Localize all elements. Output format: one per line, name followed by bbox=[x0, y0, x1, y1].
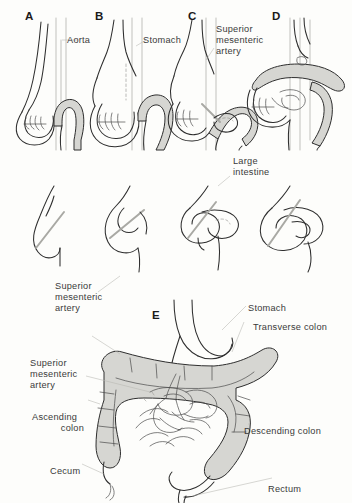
panel-letter-e: E bbox=[152, 309, 160, 321]
label-sma-top-line1: Superior bbox=[216, 24, 253, 35]
label-transverse-colon: Transverse colon bbox=[253, 322, 327, 333]
label-stomach-top: Stomach bbox=[143, 35, 181, 46]
label-sma-mid-line1: Superior bbox=[55, 281, 92, 292]
label-large-intestine-line1: Large bbox=[233, 156, 258, 167]
panel-letter-b: B bbox=[95, 10, 104, 22]
label-ascending-colon-line1: Ascending bbox=[32, 412, 77, 423]
rotation-stage-1-drawing bbox=[34, 186, 64, 266]
label-sma-top-line3: artery bbox=[216, 46, 241, 57]
panel-letter-c: C bbox=[188, 10, 197, 22]
label-sma-low-line2: mesenteric bbox=[30, 369, 77, 380]
panel-letter-d: D bbox=[272, 10, 281, 22]
label-cecum: Cecum bbox=[50, 466, 80, 477]
label-sma-mid-line3: artery bbox=[55, 303, 80, 314]
large-intestine-leader bbox=[218, 176, 230, 186]
sma-top-leader bbox=[206, 48, 214, 60]
rotation-stage-4-drawing bbox=[260, 186, 323, 272]
label-sma-low-line1: Superior bbox=[30, 358, 67, 369]
label-stomach-bottom: Stomach bbox=[248, 303, 286, 314]
label-sma-top-line2: mesenteric bbox=[216, 35, 263, 46]
panel-e-drawing bbox=[82, 300, 278, 503]
label-sma-low-line3: artery bbox=[30, 380, 55, 391]
rotation-stage-3-drawing bbox=[181, 186, 238, 270]
label-ascending-colon-line2: colon bbox=[32, 423, 84, 434]
sma-mid-leader bbox=[98, 276, 120, 292]
label-large-intestine-line2: intestine bbox=[233, 167, 269, 178]
label-descending-colon: Descending colon bbox=[244, 426, 321, 437]
panel-letter-a: A bbox=[25, 10, 34, 22]
label-sma-mid-line2: mesenteric bbox=[55, 292, 102, 303]
label-aorta: Aorta bbox=[67, 35, 90, 46]
anatomy-figure: A B C D E Aorta Stomach Superior mesente… bbox=[0, 0, 352, 503]
label-rectum: Rectum bbox=[268, 484, 301, 495]
rotation-stage-2-drawing bbox=[105, 186, 147, 272]
